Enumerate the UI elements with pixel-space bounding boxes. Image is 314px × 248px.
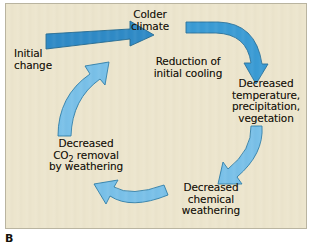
label-decreased-co2-removal: DecreasedCO2 removalby weathering — [34, 138, 138, 173]
label-colder-climate: Colder climate — [114, 9, 186, 32]
arrow-co2-to-reduction — [58, 62, 109, 136]
diagram-panel: Initial change Colder climate Decreased … — [5, 3, 307, 229]
arrow-temperature-to-chemical — [218, 126, 262, 184]
co2-removal-word: removal — [74, 149, 119, 161]
arrow-chemical-to-co2 — [94, 180, 168, 204]
label-decreased-chemical-weathering: Decreased chemical weathering — [168, 182, 254, 217]
co2-line-1: Decreased — [59, 137, 114, 149]
co2-line-3: by weathering — [49, 160, 123, 172]
label-reduction-initial-cooling: Reduction of initial cooling — [138, 56, 238, 79]
label-decreased-temperature: Decreased temperature, precipitation, ve… — [224, 78, 307, 124]
figure-caption-label: B — [5, 232, 13, 245]
figure-container: Initial change Colder climate Decreased … — [0, 0, 314, 248]
label-initial-change: Initial change — [14, 48, 84, 71]
co2-formula: CO — [53, 149, 68, 161]
